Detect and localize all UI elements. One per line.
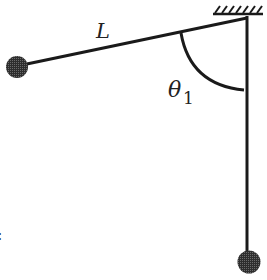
- angle-arc: [181, 33, 244, 90]
- string-at-angle: [22, 18, 247, 65]
- bob-initial-position: [6, 56, 28, 78]
- pendulum-diagram: L θ 1 :: [0, 0, 267, 280]
- cropped-edge-mark: :: [0, 225, 2, 244]
- angle-label: θ: [168, 77, 181, 102]
- angle-subscript: 1: [183, 88, 194, 108]
- bob-lowest-position: [238, 251, 261, 274]
- length-label: L: [95, 19, 110, 43]
- ceiling-support: [213, 6, 263, 14]
